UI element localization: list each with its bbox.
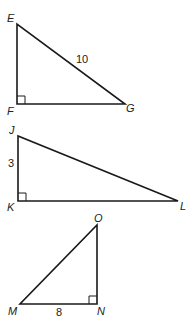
triangle-mno-outline [20,225,97,304]
side-label-mn: 8 [56,306,62,318]
vertex-label-g: G [126,102,135,114]
diagram-canvas: E F G 10 J K L 3 O M N 8 [0,0,192,318]
triangle-efg: E F G 10 [7,12,135,117]
side-label-eg: 10 [76,53,88,65]
vertex-label-j: J [8,124,15,136]
right-angle-marker-f [17,96,25,104]
right-angle-marker-k [18,193,26,201]
vertex-label-o: O [94,212,103,224]
vertex-label-l: L [180,200,186,212]
vertex-label-e: E [7,12,15,24]
vertex-label-k: K [7,201,15,213]
vertex-label-n: N [97,305,105,317]
side-label-jk: 3 [8,157,14,169]
triangle-efg-outline [17,24,125,104]
triangle-jkl-outline [18,136,178,201]
vertex-label-m: M [8,305,18,317]
triangle-mno: O M N 8 [8,212,105,318]
vertex-label-f: F [7,105,15,117]
right-angle-marker-n [89,296,97,304]
triangle-jkl: J K L 3 [7,124,186,213]
